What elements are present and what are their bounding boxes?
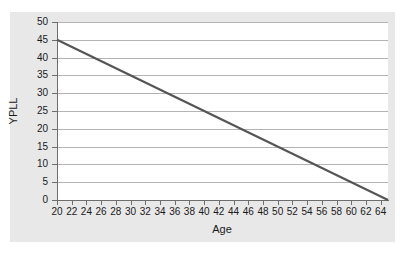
x-tick-mark xyxy=(101,200,102,205)
x-tick-mark xyxy=(189,200,190,205)
x-tick-label: 26 xyxy=(96,207,107,217)
x-tick-mark xyxy=(381,200,382,205)
x-tick-mark xyxy=(278,200,279,205)
x-tick-mark xyxy=(292,200,293,205)
x-tick-label: 40 xyxy=(199,207,210,217)
x-tick-mark xyxy=(234,200,235,205)
y-tick-label: 0 xyxy=(42,195,57,205)
x-tick-label: 24 xyxy=(81,207,92,217)
x-tick-label: 44 xyxy=(228,207,239,217)
x-tick-mark xyxy=(366,200,367,205)
x-tick-label: 54 xyxy=(302,207,313,217)
x-tick-label: 22 xyxy=(66,207,77,217)
y-axis-title: YPLL xyxy=(7,98,19,125)
x-tick-mark xyxy=(337,200,338,205)
x-tick-label: 48 xyxy=(257,207,268,217)
x-tick-label: 60 xyxy=(346,207,357,217)
data-series-line xyxy=(57,22,388,200)
x-tick-mark xyxy=(322,200,323,205)
x-tick-mark xyxy=(160,200,161,205)
y-tick-label: 5 xyxy=(42,177,57,187)
x-tick-mark xyxy=(131,200,132,205)
x-tick-label: 56 xyxy=(316,207,327,217)
x-tick-mark xyxy=(116,200,117,205)
y-tick-label: 20 xyxy=(37,124,57,134)
x-tick-mark xyxy=(351,200,352,205)
x-tick-label: 32 xyxy=(140,207,151,217)
x-tick-mark xyxy=(57,200,58,205)
y-tick-label: 30 xyxy=(37,88,57,98)
x-tick-mark xyxy=(263,200,264,205)
x-tick-label: 46 xyxy=(243,207,254,217)
y-tick-label: 25 xyxy=(37,106,57,116)
x-tick-mark xyxy=(72,200,73,205)
x-tick-label: 52 xyxy=(287,207,298,217)
x-axis-title: Age xyxy=(212,223,232,235)
x-tick-mark xyxy=(307,200,308,205)
x-tick-label: 64 xyxy=(375,207,386,217)
x-tick-label: 50 xyxy=(272,207,283,217)
y-tick-label: 45 xyxy=(37,35,57,45)
y-tick-label: 40 xyxy=(37,53,57,63)
x-tick-mark xyxy=(145,200,146,205)
y-tick-label: 50 xyxy=(37,17,57,27)
y-tick-label: 35 xyxy=(37,70,57,80)
x-axis-line xyxy=(57,200,389,201)
x-tick-label: 36 xyxy=(169,207,180,217)
x-tick-label: 28 xyxy=(110,207,121,217)
x-tick-label: 34 xyxy=(154,207,165,217)
x-tick-mark xyxy=(248,200,249,205)
x-tick-label: 30 xyxy=(125,207,136,217)
x-tick-mark xyxy=(175,200,176,205)
y-tick-label: 15 xyxy=(37,142,57,152)
x-tick-label: 38 xyxy=(184,207,195,217)
x-tick-label: 58 xyxy=(331,207,342,217)
x-tick-mark xyxy=(86,200,87,205)
x-tick-label: 62 xyxy=(360,207,371,217)
x-tick-mark xyxy=(204,200,205,205)
x-tick-label: 42 xyxy=(213,207,224,217)
y-tick-label: 10 xyxy=(37,159,57,169)
x-tick-label: 20 xyxy=(51,207,62,217)
chart-figure: 05101520253035404550 2022242628303234363… xyxy=(10,12,395,242)
x-tick-mark xyxy=(219,200,220,205)
